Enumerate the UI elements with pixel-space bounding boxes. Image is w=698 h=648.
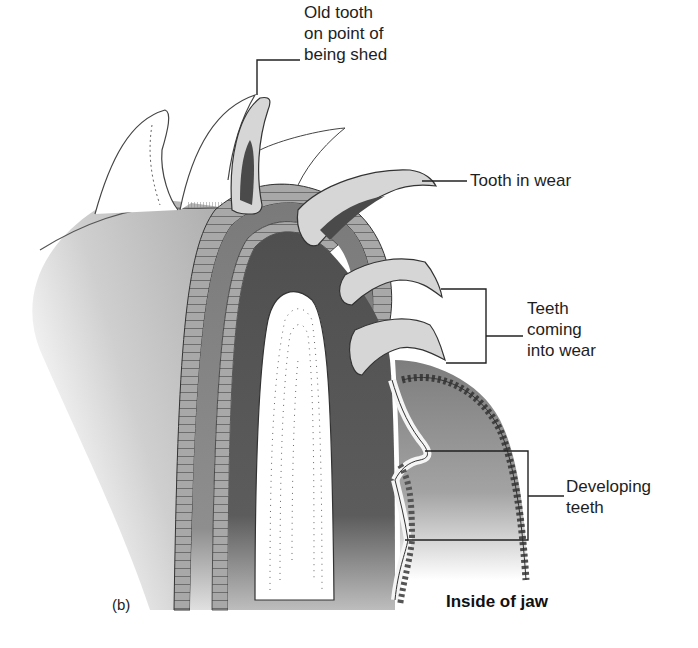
label-line: Developing	[566, 476, 651, 497]
label-teeth-coming-into-wear: Teeth coming into wear	[527, 298, 596, 361]
label-developing-teeth: Developing teeth	[566, 476, 651, 518]
label-line: Old tooth	[304, 2, 387, 23]
jaw-diagram: Old tooth on point of being shed Tooth i…	[0, 0, 698, 648]
label-line: being shed	[304, 44, 387, 65]
inner-jaw-tissue	[395, 360, 528, 580]
label-tooth-in-wear: Tooth in wear	[470, 170, 571, 191]
figure-caption: Inside of jaw	[446, 592, 548, 612]
label-line: Teeth	[527, 298, 596, 319]
leader-old-tooth	[257, 60, 300, 95]
label-line: into wear	[527, 340, 596, 361]
label-line: teeth	[566, 497, 651, 518]
label-old-tooth: Old tooth on point of being shed	[304, 2, 387, 65]
label-line: on point of	[304, 23, 387, 44]
label-line: Tooth in wear	[470, 170, 571, 191]
shed-tooth-outline-1	[95, 110, 178, 214]
leader-teeth-coming-bracket	[441, 289, 486, 363]
panel-letter: (b)	[112, 596, 130, 613]
jaw-cartilage	[255, 292, 334, 600]
label-line: coming	[527, 319, 596, 340]
